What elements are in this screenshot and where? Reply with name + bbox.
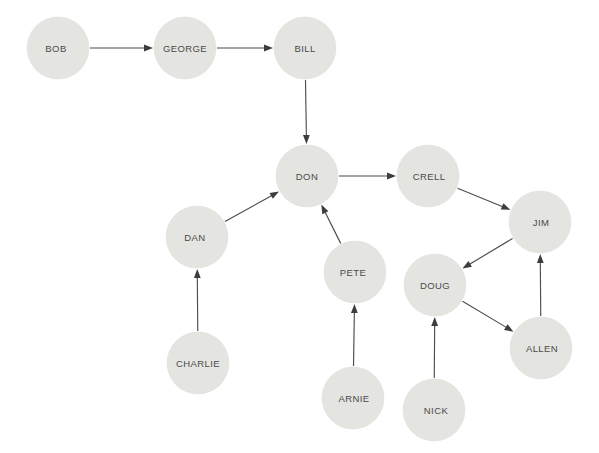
edge-charlie-to-dan xyxy=(194,269,201,331)
graph-node-crell[interactable]: CRELL xyxy=(397,145,459,207)
graph-node-bill[interactable]: BILL xyxy=(274,17,336,79)
node-layer: BOBGEORGEBILLDONCRELLJIMDANPETEDOUGALLEN… xyxy=(27,17,572,441)
node-label-bill: BILL xyxy=(294,43,315,54)
arrowhead-icon xyxy=(504,324,513,332)
graph-node-arnie[interactable]: ARNIE xyxy=(322,367,384,429)
node-label-doug: DOUG xyxy=(420,280,450,291)
node-label-crell: CRELL xyxy=(413,171,446,182)
node-label-george: GEORGE xyxy=(163,43,207,54)
graph-node-doug[interactable]: DOUG xyxy=(404,254,466,316)
graph-canvas: BOBGEORGEBILLDONCRELLJIMDANPETEDOUGALLEN… xyxy=(0,0,599,453)
graph-node-george[interactable]: GEORGE xyxy=(154,17,216,79)
graph-node-pete[interactable]: PETE xyxy=(324,241,386,303)
graph-node-dan[interactable]: DAN xyxy=(166,206,228,268)
arrowhead-icon xyxy=(351,304,358,313)
edge-arnie-to-pete xyxy=(351,304,358,366)
edge-layer xyxy=(90,45,544,378)
node-label-don: DON xyxy=(296,171,318,182)
edge-dan-to-don xyxy=(225,192,279,222)
arrowhead-icon xyxy=(303,135,310,144)
node-label-nick: NICK xyxy=(424,405,449,416)
edge-jim-to-doug xyxy=(462,238,512,268)
edge-george-to-bill xyxy=(217,45,273,52)
graph-node-charlie[interactable]: CHARLIE xyxy=(167,332,229,394)
node-label-allen: ALLEN xyxy=(526,343,558,354)
arrowhead-icon xyxy=(387,173,396,180)
arrowhead-icon xyxy=(501,203,511,210)
arrowhead-icon xyxy=(264,45,273,52)
arrowhead-icon xyxy=(462,261,471,269)
arrowhead-icon xyxy=(270,192,280,199)
graph-node-bob[interactable]: BOB xyxy=(27,17,89,79)
edge-bill-to-don xyxy=(303,80,310,144)
graph-node-don[interactable]: DON xyxy=(276,145,338,207)
arrowhead-icon xyxy=(194,269,201,278)
arrowhead-icon xyxy=(431,317,438,326)
node-label-jim: JIM xyxy=(533,217,550,228)
edge-nick-to-doug xyxy=(431,317,438,378)
edge-allen-to-jim xyxy=(537,254,544,316)
edge-bob-to-george xyxy=(90,45,153,52)
arrowhead-icon xyxy=(321,205,328,215)
graph-node-jim[interactable]: JIM xyxy=(509,191,571,253)
node-label-charlie: CHARLIE xyxy=(176,358,220,369)
node-label-pete: PETE xyxy=(340,267,366,278)
edge-don-to-crell xyxy=(339,173,396,180)
node-label-dan: DAN xyxy=(184,232,205,243)
edge-doug-to-allen xyxy=(463,301,514,331)
arrowhead-icon xyxy=(537,254,544,263)
node-label-bob: BOB xyxy=(45,43,66,54)
arrowhead-icon xyxy=(144,45,153,52)
graph-node-allen[interactable]: ALLEN xyxy=(510,317,572,379)
node-label-arnie: ARNIE xyxy=(338,393,369,404)
edge-pete-to-don xyxy=(321,205,340,244)
edge-crell-to-jim xyxy=(458,188,511,210)
graph-diagram: BOBGEORGEBILLDONCRELLJIMDANPETEDOUGALLEN… xyxy=(0,0,599,453)
graph-node-nick[interactable]: NICK xyxy=(403,379,465,441)
